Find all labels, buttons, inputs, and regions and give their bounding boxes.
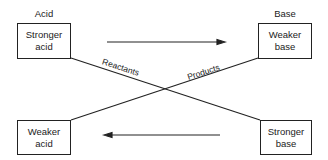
box-line-1: Stronger [26,29,62,41]
box-line-2: base [276,138,297,150]
reverse-arrowhead-icon [104,133,112,138]
box-line-2: acid [35,138,52,150]
box-line-1: Weaker [269,29,302,41]
weaker-acid-box: Weaker acid [17,120,71,155]
base-heading: Base [258,8,312,19]
forward-arrowhead-icon [217,40,225,45]
box-line-2: base [275,41,296,53]
stronger-acid-box: Stronger acid [17,23,71,59]
box-line-1: Stronger [268,126,304,138]
stronger-base-box: Stronger base [260,120,312,155]
acid-heading: Acid [17,8,71,19]
box-line-1: Weaker [28,126,61,138]
weaker-base-box: Weaker base [258,23,312,59]
box-line-2: acid [35,41,52,53]
